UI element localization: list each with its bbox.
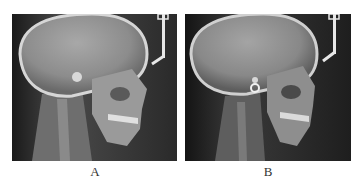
cephalometric-xray-image-a [12,14,177,161]
cephalometric-xray-image-b [185,14,351,161]
panel-label-a: A [80,164,110,180]
panel-label-b: B [253,164,283,180]
radiograph-panel-a [12,14,177,161]
radiograph-panel-b [185,14,351,161]
